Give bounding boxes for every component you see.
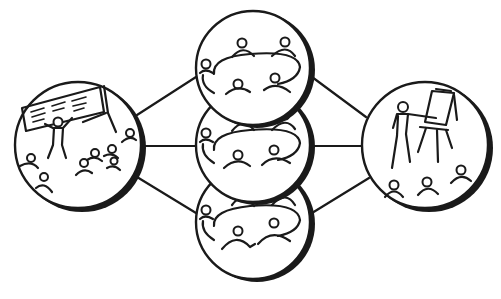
node-report-back	[362, 82, 493, 212]
diagram-canvas	[0, 0, 501, 299]
edge-group-1-report	[312, 77, 366, 117]
edge-plenary-group-3	[137, 177, 196, 213]
edge-plenary-group-1	[137, 77, 196, 115]
edge-group-3-report	[312, 178, 369, 213]
node-plenary	[15, 82, 146, 212]
workshop-diagram: Workshop format diagram: plenary present…	[0, 0, 501, 299]
node-group-1	[196, 11, 315, 128]
